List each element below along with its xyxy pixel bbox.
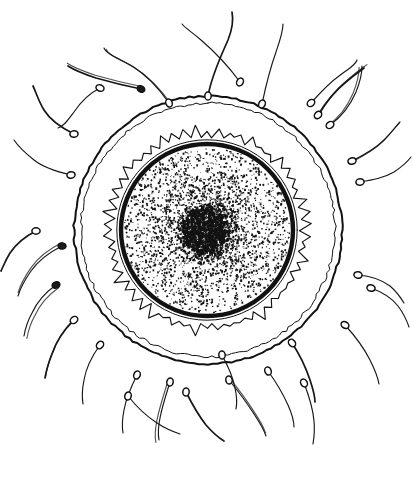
sperm-head: [32, 228, 40, 234]
sperm-head: [182, 388, 189, 397]
sperm-head: [205, 92, 211, 100]
sperm-head: [66, 171, 75, 179]
sperm-head: [58, 242, 67, 249]
ovum-drawing-canvas: [0, 0, 413, 490]
sperm-head: [353, 271, 362, 279]
sperm-head: [218, 351, 225, 360]
fertilization-illustration: [0, 0, 413, 490]
sperm-head: [356, 178, 365, 185]
sperm-head: [70, 130, 79, 137]
sperm-head: [166, 377, 174, 386]
